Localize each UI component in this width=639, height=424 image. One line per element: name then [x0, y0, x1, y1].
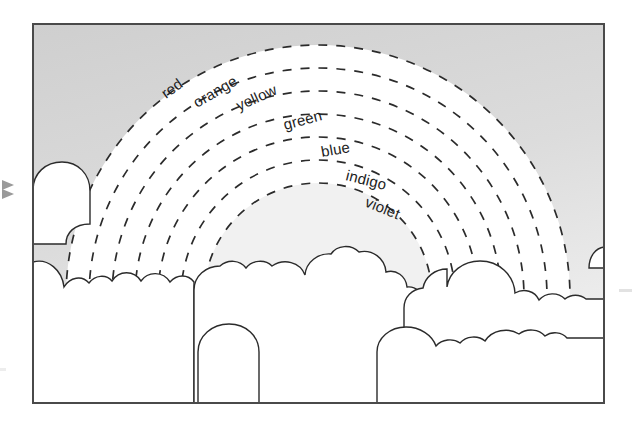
rainbow-diagram: red orange yellow green blue indigo viol…: [0, 0, 639, 424]
left-tick-marker: [0, 368, 6, 371]
cloud-center-puff: [198, 324, 259, 403]
left-arrow-marker-lower: [2, 189, 14, 199]
cloud-right-lower: [377, 327, 604, 403]
left-arrow-marker-upper: [2, 180, 14, 190]
figure-canvas: red orange yellow green blue indigo viol…: [0, 0, 639, 424]
cloud-left-lower: [33, 261, 194, 403]
right-tick-marker: [619, 289, 632, 292]
